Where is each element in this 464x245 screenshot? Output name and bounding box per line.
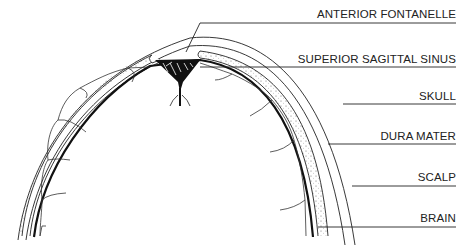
leader-anterior-fontanelle [186, 23, 456, 52]
label-superior-sagittal-sinus: SUPERIOR SAGITTAL SINUS [298, 54, 456, 66]
bone-end-right [198, 51, 200, 58]
label-anterior-fontanelle: ANTERIOR FONTANELLE [317, 9, 456, 21]
superior-sagittal-sinus [155, 59, 201, 106]
label-brain: BRAIN [420, 213, 456, 225]
label-dura-mater: DURA MATER [380, 131, 456, 143]
skull-cross-section-diagram [0, 0, 464, 245]
label-skull: SKULL [419, 91, 456, 103]
label-scalp: SCALP [418, 172, 456, 184]
